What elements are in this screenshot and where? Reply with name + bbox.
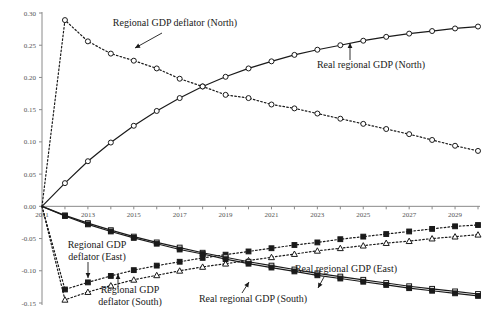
annotation-line: Regional GDP deflator (North) bbox=[113, 17, 237, 29]
marker-square-filled bbox=[384, 283, 389, 288]
annotation-text: Regional GDPdeflator (East) bbox=[68, 239, 127, 263]
marker-square-filled bbox=[108, 274, 113, 279]
marker-square-filled bbox=[338, 237, 343, 242]
marker-square-filled bbox=[430, 226, 435, 231]
marker-circle-open bbox=[62, 181, 67, 186]
marker-square-filled bbox=[453, 291, 458, 296]
marker-square-filled bbox=[292, 243, 297, 248]
x-tick-label: 2027 bbox=[402, 211, 417, 219]
marker-square-filled bbox=[108, 229, 113, 234]
marker-circle-open bbox=[131, 58, 136, 63]
x-tick-label: 2011 bbox=[35, 211, 49, 219]
annotation-text: Real regional GDP (East) bbox=[295, 263, 397, 275]
marker-square-filled bbox=[361, 234, 366, 239]
marker-circle-open bbox=[85, 39, 90, 44]
marker-circle-open bbox=[361, 38, 366, 43]
marker-square-filled bbox=[453, 224, 458, 229]
annotation-text: Regional GDPdeflator (South) bbox=[98, 284, 162, 308]
marker-square-filled bbox=[384, 232, 389, 237]
marker-circle-open bbox=[223, 92, 228, 97]
marker-square-filled bbox=[85, 222, 90, 227]
x-tick-label: 2021 bbox=[264, 211, 279, 219]
marker-circle-open bbox=[200, 84, 205, 89]
marker-square-filled bbox=[200, 252, 205, 257]
marker-circle-open bbox=[177, 96, 182, 101]
marker-circle-open bbox=[108, 51, 113, 56]
x-tick-label: 2023 bbox=[310, 211, 325, 219]
y-tick-label: -0.10 bbox=[21, 267, 36, 275]
marker-circle-open bbox=[315, 47, 320, 52]
marker-circle-open bbox=[246, 96, 251, 101]
annotation-text: Regional GDP deflator (North) bbox=[113, 17, 237, 29]
marker-circle-open bbox=[177, 76, 182, 81]
y-tick-label: -0.05 bbox=[21, 235, 36, 243]
marker-circle-open bbox=[407, 31, 412, 36]
marker-circle-open bbox=[85, 159, 90, 164]
annotation-line: Regional GDP bbox=[68, 239, 127, 250]
marker-square-filled bbox=[154, 263, 159, 268]
y-tick-label: 0.15 bbox=[24, 106, 37, 114]
marker-circle-open bbox=[246, 66, 251, 71]
marker-circle-open bbox=[223, 74, 228, 79]
marker-square-filled bbox=[361, 279, 366, 284]
x-tick-label: 2017 bbox=[173, 211, 188, 219]
annotation-line: Real regional GDP (South) bbox=[199, 293, 307, 305]
annotation-line: Real regional GDP (North) bbox=[317, 59, 425, 71]
marker-circle-open bbox=[315, 111, 320, 116]
chart-canvas: 0.300.250.200.150.100.050.00-0.05-0.10-0… bbox=[0, 0, 490, 320]
marker-circle-open bbox=[407, 132, 412, 137]
marker-circle-open bbox=[269, 59, 274, 64]
marker-circle-open bbox=[131, 123, 136, 128]
chart-background bbox=[0, 0, 490, 320]
marker-square-filled bbox=[131, 268, 136, 273]
marker-circle-open bbox=[476, 24, 481, 29]
y-tick-label: 0.10 bbox=[24, 138, 37, 146]
annotation-line: Regional GDP bbox=[101, 284, 160, 295]
marker-square-filled bbox=[177, 247, 182, 252]
marker-circle-open bbox=[154, 108, 159, 113]
marker-square-filled bbox=[63, 214, 68, 219]
marker-circle-open bbox=[453, 26, 458, 31]
annotation-line: deflator (East) bbox=[68, 251, 125, 263]
marker-circle-open bbox=[476, 148, 481, 153]
marker-circle-open bbox=[292, 106, 297, 111]
marker-circle-open bbox=[108, 140, 113, 145]
marker-square-filled bbox=[269, 265, 274, 270]
regional-gdp-chart: 0.300.250.200.150.100.050.00-0.05-0.10-0… bbox=[0, 0, 490, 320]
marker-square-filled bbox=[154, 241, 159, 246]
marker-circle-open bbox=[430, 137, 435, 142]
marker-circle-open bbox=[269, 102, 274, 107]
marker-square-filled bbox=[85, 280, 90, 285]
y-tick-label: -0.15 bbox=[21, 300, 36, 308]
marker-circle-open bbox=[453, 143, 458, 148]
marker-square-filled bbox=[407, 229, 412, 234]
marker-square-filled bbox=[223, 257, 228, 262]
marker-square-filled bbox=[338, 276, 343, 281]
marker-square-filled bbox=[177, 259, 182, 264]
marker-square-filled bbox=[246, 249, 251, 254]
annotation-text: Real regional GDP (South) bbox=[199, 293, 307, 305]
x-tick-label: 2025 bbox=[356, 211, 371, 219]
y-tick-label: 0.00 bbox=[24, 203, 37, 211]
marker-square-filled bbox=[430, 288, 435, 293]
marker-circle-open bbox=[338, 43, 343, 48]
x-tick-label: 2019 bbox=[219, 211, 234, 219]
annotation-line: deflator (South) bbox=[98, 296, 162, 308]
x-tick-label: 2029 bbox=[448, 211, 463, 219]
marker-circle-open bbox=[361, 121, 366, 126]
y-tick-label: 0.25 bbox=[24, 42, 37, 50]
marker-square-filled bbox=[246, 261, 251, 266]
marker-square-filled bbox=[131, 236, 136, 241]
x-tick-label: 2013 bbox=[81, 211, 96, 219]
marker-square-filled bbox=[476, 294, 481, 299]
y-tick-label: 0.05 bbox=[24, 171, 37, 179]
marker-circle-open bbox=[62, 18, 67, 23]
marker-circle-open bbox=[292, 52, 297, 57]
annotation-text: Real regional GDP (North) bbox=[317, 59, 425, 71]
y-tick-label: 0.30 bbox=[24, 10, 37, 18]
x-tick-label: 2015 bbox=[127, 211, 142, 219]
marker-circle-open bbox=[384, 34, 389, 39]
marker-circle-open bbox=[338, 116, 343, 121]
annotation-line: Real regional GDP (East) bbox=[295, 263, 397, 275]
marker-circle-open bbox=[154, 66, 159, 71]
